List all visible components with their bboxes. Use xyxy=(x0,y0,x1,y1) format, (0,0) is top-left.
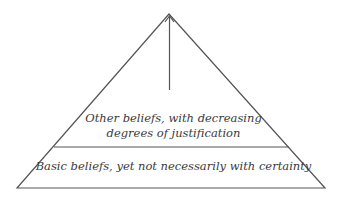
upper-tier-line-2: degrees of justification xyxy=(0,126,347,141)
upper-tier-label: Other beliefs, with decreasing degrees o… xyxy=(0,111,347,141)
base-tier-label: Basic beliefs, yet not necessarily with … xyxy=(0,159,347,174)
base-tier-line-1: Basic beliefs, yet not necessarily with … xyxy=(0,159,347,174)
upper-tier-line-1: Other beliefs, with decreasing xyxy=(0,111,347,126)
